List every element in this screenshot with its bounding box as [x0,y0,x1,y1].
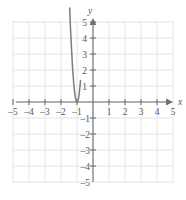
y-tick-label: 3 [82,50,87,60]
x-tick-label: 5 [171,107,176,117]
y-tick-label: –2 [80,130,91,140]
x-tick-label: –5 [7,107,18,117]
x-tick-label: 1 [107,107,112,117]
y-axis-label: y [87,6,93,16]
y-tick-label: 4 [82,34,87,44]
y-tick-label: –4 [80,162,91,172]
y-tick-label: 1 [82,82,87,92]
y-tick-label: –5 [80,178,91,188]
graph-figure: –5 –4 –3 –2 –1 1 2 3 4 5 5 4 3 2 1 –1 –2… [0,0,186,200]
x-tick-label: 3 [139,107,144,117]
y-tick-label: 5 [82,18,87,28]
x-tick-label: –2 [55,107,66,117]
x-tick-label: –3 [39,107,50,117]
y-tick-label: 2 [82,66,87,76]
y-tick-label: –3 [80,146,91,156]
x-axis-label: x [177,97,183,107]
x-tick-label: 2 [123,107,128,117]
y-tick-label: –1 [80,114,91,124]
x-tick-label: –4 [23,107,34,117]
coordinate-plane-graph: –5 –4 –3 –2 –1 1 2 3 4 5 5 4 3 2 1 –1 –2… [0,0,186,200]
x-tick-label: 4 [155,107,160,117]
